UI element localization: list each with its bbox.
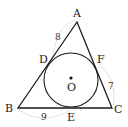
- geometry-diagram: A B C D E F O 8 7 9: [0, 0, 128, 127]
- label-E: E: [67, 111, 75, 124]
- length-BE: 9: [41, 112, 47, 122]
- label-C: C: [114, 103, 122, 116]
- label-B: B: [5, 102, 13, 115]
- label-F: F: [97, 53, 105, 66]
- label-A: A: [72, 7, 82, 20]
- center-point: [69, 76, 72, 79]
- length-CF: 7: [108, 81, 114, 91]
- label-O: O: [67, 81, 76, 94]
- label-D: D: [39, 53, 48, 66]
- length-AD: 8: [55, 32, 61, 42]
- incircle: [44, 53, 98, 107]
